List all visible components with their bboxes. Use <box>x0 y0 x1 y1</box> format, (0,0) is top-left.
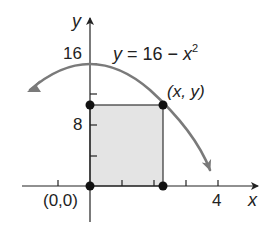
equation-middle: = 16 − <box>122 44 183 64</box>
x-axis-point <box>159 182 168 191</box>
inscribed-rectangle <box>90 105 163 186</box>
origin-label: (0,0) <box>43 192 78 209</box>
curve-point <box>159 101 168 110</box>
y-axis-point <box>86 101 95 110</box>
equation-var: x <box>183 44 192 64</box>
equation-lhs: y <box>113 44 122 64</box>
point-label: (x, y) <box>167 83 205 100</box>
y-axis-label: y <box>72 12 81 30</box>
origin-point <box>86 182 95 191</box>
diagram-canvas: y x 16 8 4 (0,0) y = 16 − x2 (x, y) <box>0 0 275 227</box>
y-tick-label-16: 16 <box>63 45 82 62</box>
equation-exponent: 2 <box>192 42 198 54</box>
x-axis-label: x <box>248 191 257 209</box>
graph <box>0 0 275 227</box>
equation-label: y = 16 − x2 <box>113 43 198 63</box>
y-tick-label-8: 8 <box>73 116 82 133</box>
x-tick-label-4: 4 <box>212 192 221 209</box>
curve-left-arrow-icon <box>27 80 41 92</box>
